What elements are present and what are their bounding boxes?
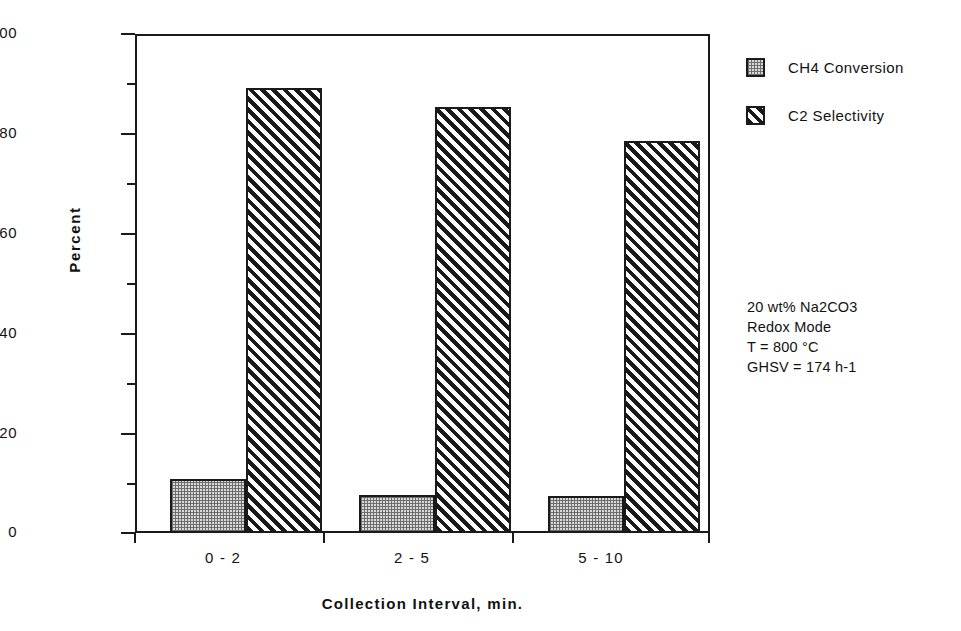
y-tick-90: [127, 83, 135, 85]
y-tick-100: [121, 33, 135, 35]
y-tick-60: [121, 233, 135, 235]
x-category-label-2-5: 2 - 5: [347, 549, 477, 566]
legend-item-c2-selectivity: C2 Selectivity: [746, 105, 956, 125]
y-tick-30: [127, 383, 135, 385]
y-tick-0: [121, 532, 135, 534]
y-tick-label-0: 0: [8, 523, 17, 540]
condition-line-ghsv: GHSV = 174 h-1: [747, 357, 858, 377]
legend: CH4 Conversion C2 Selectivity: [746, 57, 956, 153]
y-tick-40: [121, 333, 135, 335]
y-tick-label-40: 40: [0, 324, 17, 341]
x-axis-title: Collection Interval, min.: [135, 595, 710, 612]
conditions-annotation: 20 wt% Na2CO3 Redox Mode T = 800 °C GHSV…: [747, 297, 858, 377]
y-tick-label-80: 80: [0, 124, 17, 141]
y-tick-label-60: 60: [0, 224, 17, 241]
bar-ch4-conversion-0-2: [170, 479, 246, 533]
legend-label-c2-selectivity: C2 Selectivity: [788, 107, 884, 124]
bar-c2-selectivity-0-2: [246, 88, 322, 533]
y-tick-70: [127, 183, 135, 185]
x-tick-right: [708, 533, 710, 543]
legend-item-ch4-conversion: CH4 Conversion: [746, 57, 956, 77]
bar-ch4-conversion-2-5: [359, 495, 435, 533]
condition-line-mode: Redox Mode: [747, 317, 858, 337]
x-tick-1: [323, 533, 325, 543]
y-axis-title: Percent: [66, 180, 83, 300]
x-tick-left: [134, 533, 136, 543]
legend-swatch-hatch-icon: [746, 106, 765, 125]
y-axis: 100 80 60 40 20 0: [0, 0, 135, 631]
y-tick-20: [121, 433, 135, 435]
bar-chart-figure: 100 80 60 40 20 0 Percent 0 - 2: [0, 0, 961, 631]
bars-layer: [135, 34, 710, 533]
x-category-label-5-10: 5 - 10: [536, 549, 666, 566]
bar-c2-selectivity-2-5: [435, 107, 511, 533]
y-tick-label-20: 20: [0, 424, 17, 441]
legend-label-ch4-conversion: CH4 Conversion: [788, 59, 904, 76]
y-tick-50: [127, 283, 135, 285]
condition-line-catalyst: 20 wt% Na2CO3: [747, 297, 858, 317]
condition-line-temperature: T = 800 °C: [747, 337, 858, 357]
bar-ch4-conversion-5-10: [548, 496, 624, 533]
x-category-label-0-2: 0 - 2: [158, 549, 288, 566]
x-tick-2: [512, 533, 514, 543]
y-tick-80: [121, 133, 135, 135]
bar-c2-selectivity-5-10: [624, 141, 700, 533]
legend-swatch-dotted-icon: [746, 58, 765, 77]
y-tick-label-100: 100: [0, 24, 17, 41]
y-tick-10: [127, 483, 135, 485]
